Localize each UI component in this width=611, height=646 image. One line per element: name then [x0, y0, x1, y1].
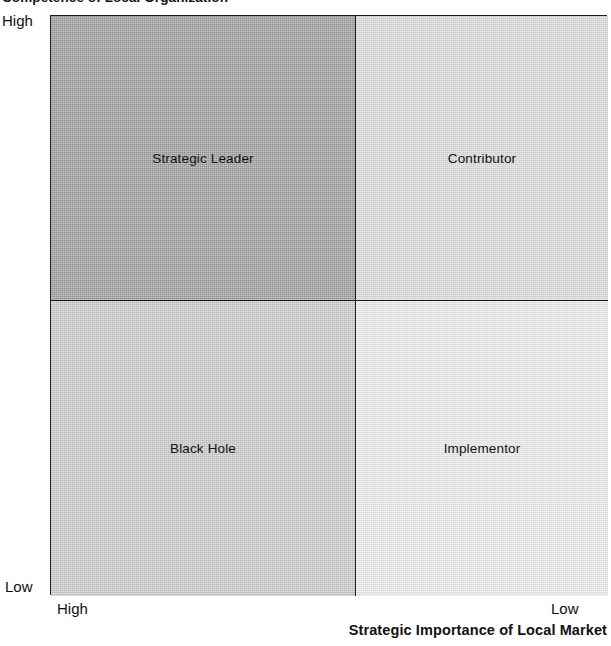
horizontal-axis-title: Strategic Importance of Local Market — [349, 622, 607, 638]
vertical-axis-title: Competence of Local Organization — [2, 0, 228, 5]
quadrant-contributor[interactable]: Contributor — [356, 16, 608, 301]
quadrant-strategic-leader[interactable]: Strategic Leader — [51, 16, 356, 301]
quadrant-label-contributor: Contributor — [448, 151, 516, 166]
x-axis-high-label: High — [57, 600, 88, 617]
quadrant-label-black-hole: Black Hole — [170, 441, 236, 456]
x-axis-low-label: Low — [551, 600, 579, 617]
quadrant-label-implementor: Implementor — [444, 441, 521, 456]
y-axis-low-label: Low — [5, 578, 33, 595]
two-by-two-matrix: Strategic Leader Contributor Black Hole … — [50, 15, 607, 595]
quadrant-label-strategic-leader: Strategic Leader — [152, 151, 253, 166]
quadrant-black-hole[interactable]: Black Hole — [51, 301, 356, 596]
y-axis-high-label: High — [2, 12, 33, 29]
quadrant-implementor[interactable]: Implementor — [356, 301, 608, 596]
